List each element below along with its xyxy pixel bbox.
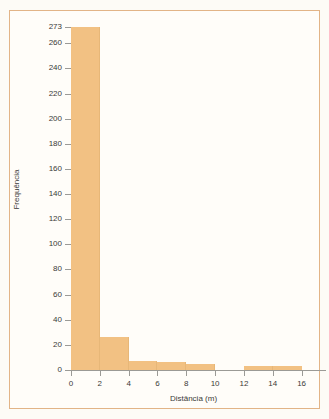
y-tick-label-text: 200: [49, 115, 62, 123]
x-tick-mark: [157, 371, 158, 376]
histogram-bar: [100, 337, 129, 370]
x-tick-mark: [100, 371, 101, 376]
y-tick-label: 273: [37, 23, 62, 31]
y-tick-label-text: 260: [49, 39, 62, 47]
y-tick-label: 140: [37, 190, 62, 198]
x-tick-label: 8: [176, 379, 196, 388]
y-tick-label: 160: [37, 165, 62, 173]
histogram-figure: Frequência 02040608010012014016018020022…: [9, 10, 320, 409]
x-tick-label: 0: [61, 379, 81, 388]
x-tick-label: 16: [292, 379, 312, 388]
x-tick-mark: [215, 371, 216, 376]
x-tick-label: 6: [147, 379, 167, 388]
y-tick-label-text: 140: [49, 190, 62, 198]
x-tick-mark: [302, 371, 303, 376]
histogram-bar: [157, 362, 186, 370]
y-tick-label-text: 80: [53, 265, 62, 273]
y-tick-label-text: 20: [53, 341, 62, 349]
y-tick-label-text: 120: [49, 215, 62, 223]
x-tick-label: 4: [119, 379, 139, 388]
y-tick-label: 60: [37, 291, 62, 299]
x-tick-label: 10: [205, 379, 225, 388]
x-tick-mark: [71, 371, 72, 376]
x-axis-title: Distância (m): [71, 394, 316, 403]
y-tick-label-text: 0: [58, 366, 62, 374]
y-tick-label: 80: [37, 265, 62, 273]
histogram-bar: [71, 27, 100, 370]
x-tick-label: 2: [90, 379, 110, 388]
y-tick-label-text: 60: [53, 291, 62, 299]
x-tick-mark: [244, 371, 245, 376]
y-tick-label: 40: [37, 316, 62, 324]
y-tick-label: 100: [37, 240, 62, 248]
y-tick-label-text: 220: [49, 90, 62, 98]
y-tick-label-text: 100: [49, 240, 62, 248]
y-tick-label: 260: [37, 39, 62, 47]
x-tick-mark: [273, 371, 274, 376]
histogram-bar: [244, 366, 273, 370]
plot-area: [71, 27, 316, 370]
y-tick-label: 220: [37, 90, 62, 98]
histogram-bar: [186, 364, 215, 370]
histogram-bar: [273, 366, 302, 370]
y-tick-label-text: 273: [49, 23, 62, 31]
y-tick-label: 20: [37, 341, 62, 349]
y-tick-label-text: 40: [53, 316, 62, 324]
y-tick-label: 180: [37, 140, 62, 148]
y-tick-label: 120: [37, 215, 62, 223]
y-tick-label-text: 160: [49, 165, 62, 173]
y-tick-label: 200: [37, 115, 62, 123]
x-tick-label: 12: [234, 379, 254, 388]
histogram-bar: [129, 361, 158, 370]
y-axis-title: Frequência: [12, 140, 21, 240]
y-tick-label-text: 180: [49, 140, 62, 148]
chart-page: Frequência 02040608010012014016018020022…: [0, 0, 329, 419]
x-axis-line: [71, 370, 326, 371]
x-tick-label: 14: [263, 379, 283, 388]
y-tick-label: 240: [37, 64, 62, 72]
y-tick-label: 0: [37, 366, 62, 374]
x-tick-mark: [186, 371, 187, 376]
x-tick-mark: [129, 371, 130, 376]
y-tick-label-text: 240: [49, 64, 62, 72]
